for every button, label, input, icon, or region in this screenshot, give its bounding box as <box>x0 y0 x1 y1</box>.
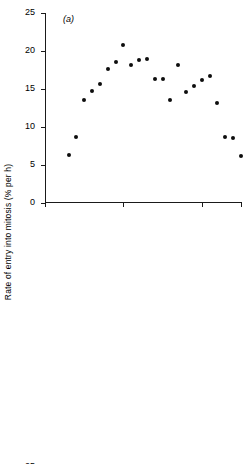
data-point <box>67 153 71 157</box>
panel-a: (a) 0510152025 <box>0 0 247 230</box>
y-tick-label: 25 <box>11 461 35 464</box>
data-point <box>192 84 196 88</box>
y-tick: 15 <box>41 89 45 90</box>
panel-a-y-axis <box>45 13 46 203</box>
data-point <box>231 136 235 140</box>
data-point <box>106 67 110 71</box>
data-point <box>239 154 243 158</box>
panel-a-x-axis <box>45 202 241 203</box>
y-tick-label: 25 <box>11 7 35 18</box>
data-point <box>208 74 212 78</box>
data-point <box>153 77 157 81</box>
data-point <box>223 135 227 139</box>
data-point <box>200 78 204 82</box>
x-tick <box>123 202 124 207</box>
x-tick <box>241 202 242 207</box>
panel-a-plot-area: 0510152025 <box>45 13 241 203</box>
y-tick: 10 <box>41 127 45 128</box>
y-tick: 25 <box>41 13 45 14</box>
y-tick-label: 20 <box>11 45 35 56</box>
data-point <box>98 82 102 86</box>
panel-b: (b) 0510152025 0102025 Cell position in … <box>0 230 247 464</box>
data-point <box>161 77 165 81</box>
x-tick <box>45 202 46 207</box>
y-tick-label: 10 <box>11 121 35 132</box>
y-tick: 20 <box>41 51 45 52</box>
y-tick-label: 5 <box>11 159 35 170</box>
data-point <box>74 135 78 139</box>
data-point <box>137 58 141 62</box>
figure-scatter-pair: Rate of entry into mitosis (% per h) (a)… <box>0 0 247 464</box>
y-tick-label: 0 <box>11 197 35 208</box>
data-point <box>82 98 86 102</box>
y-tick: 5 <box>41 165 45 166</box>
y-tick-label: 15 <box>11 83 35 94</box>
x-tick <box>202 202 203 207</box>
data-point <box>215 101 219 105</box>
data-point <box>168 98 172 102</box>
data-point <box>114 60 118 64</box>
data-point <box>121 43 125 47</box>
data-point <box>176 63 180 67</box>
data-point <box>145 57 149 61</box>
data-point <box>129 63 133 67</box>
data-point <box>90 89 94 93</box>
data-point <box>184 90 188 94</box>
